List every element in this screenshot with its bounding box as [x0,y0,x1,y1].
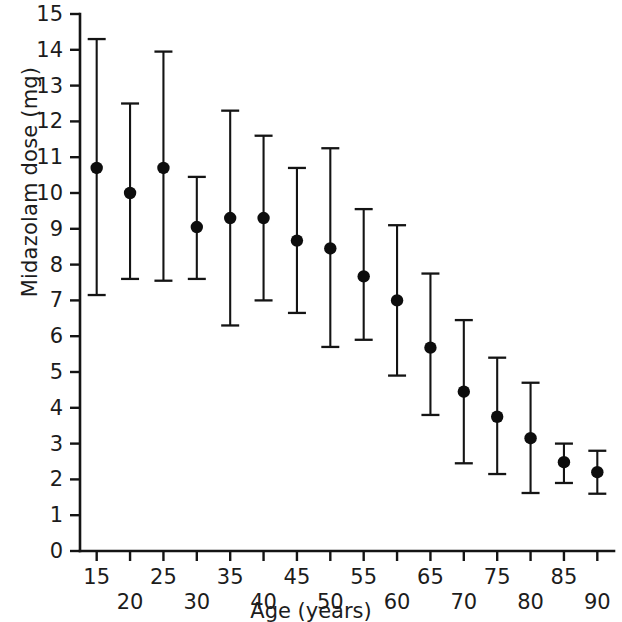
data-point-marker [391,294,403,306]
y-axis-tick-label: 11 [36,145,63,169]
x-axis-tick-label: 45 [284,565,311,589]
y-axis-tick-label: 15 [36,2,63,26]
x-axis-tick-label: 25 [150,565,177,589]
data-point-group [522,383,540,493]
data-point-group [288,168,306,313]
data-point-group [455,320,473,463]
data-point-group [255,136,273,301]
data-point-group [488,358,506,474]
x-axis-tick-label: 15 [83,565,110,589]
y-axis-tick-label: 3 [50,432,63,456]
data-point-group [388,225,406,375]
data-point-marker [558,456,570,468]
x-axis-title: Age (years) [0,599,622,622]
data-point-marker [357,270,369,282]
x-axis-tick-label: 85 [551,565,578,589]
data-point-marker [524,432,536,444]
x-axis-tick-label: 75 [484,565,511,589]
data-point-group [121,104,139,279]
y-axis-tick-label: 2 [50,467,63,491]
y-axis-tick-label: 14 [36,38,63,62]
data-point-group [555,444,573,483]
data-point-group [355,209,373,340]
data-point-marker [591,466,603,478]
y-axis-tick-label: 12 [36,109,63,133]
data-point-marker [491,411,503,423]
data-point-group [588,451,606,494]
data-point-marker [257,212,269,224]
data-series-midazolam-dose [88,39,607,494]
y-axis-tick-label: 13 [36,74,63,98]
data-point-group [154,52,172,281]
y-axis: 0123456789101112131415 [36,2,80,563]
data-point-marker [124,187,136,199]
x-axis-tick-label: 35 [217,565,244,589]
data-point-marker [324,242,336,254]
data-point-group [421,274,439,415]
data-point-marker [191,221,203,233]
data-point-marker [424,341,436,353]
data-point-marker [157,162,169,174]
y-axis-tick-label: 7 [50,288,63,312]
data-point-marker [291,234,303,246]
data-point-marker [458,385,470,397]
data-point-group [188,177,206,279]
y-axis-tick-label: 1 [50,503,63,527]
data-point-group [321,148,339,347]
y-axis-tick-label: 5 [50,360,63,384]
data-point-group [88,39,106,295]
y-axis-tick-label: 8 [50,253,63,277]
midazolam-dose-by-age-chart: Midazolam dose (mg) 01234567891011121314… [0,0,622,622]
x-axis-tick-label: 55 [350,565,377,589]
data-point-marker [224,212,236,224]
y-axis-tick-label: 0 [50,539,63,563]
plot-area: 0123456789101112131415 15202530354045505… [0,0,622,622]
y-axis-tick-label: 4 [50,396,63,420]
y-axis-tick-label: 9 [50,217,63,241]
x-axis-tick-label: 65 [417,565,444,589]
data-point-marker [90,162,102,174]
y-axis-tick-label: 6 [50,324,63,348]
y-axis-tick-label: 10 [36,181,63,205]
data-point-group [221,111,239,326]
